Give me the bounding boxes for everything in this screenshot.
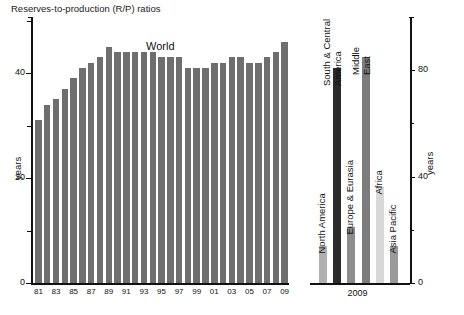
left-axis-tick-label: 40 <box>0 67 25 77</box>
left-x-axis <box>31 283 289 285</box>
right-axis-tick <box>410 177 415 178</box>
left-axis-tick-label: 0 <box>0 277 25 287</box>
bar-world-99 <box>193 68 200 283</box>
left-axis-tick <box>26 73 31 74</box>
bar-world-81 <box>35 120 42 283</box>
right-axis-tick <box>410 230 414 231</box>
bar-region-africa <box>376 187 384 283</box>
bar-world-86 <box>79 68 86 283</box>
chart-figure: Reserves-to-production (R/P) ratios 0204… <box>0 0 464 315</box>
bar-world-02 <box>220 63 227 284</box>
left-axis-tick <box>27 21 31 22</box>
bar-region-middle-east <box>362 57 370 283</box>
region-label-south-central-america: South & CentralAmerica <box>322 18 343 85</box>
bar-world-07 <box>264 57 271 283</box>
right-y-axis <box>410 17 412 284</box>
left-axis-tick <box>27 126 31 127</box>
left-axis-unit-label: years <box>12 157 23 180</box>
bar-world-92 <box>132 52 139 283</box>
region-label-asia-pacific: Asia Pacific <box>387 204 398 253</box>
bar-world-83 <box>53 99 60 283</box>
chart-title: Reserves-to-production (R/P) ratios <box>11 3 160 14</box>
region-label-africa: Africa <box>373 170 384 194</box>
left-axis-tick <box>27 231 31 232</box>
bar-world-95 <box>158 57 165 283</box>
right-axis-cap <box>409 17 414 18</box>
right-x-axis <box>310 283 410 285</box>
bar-world-88 <box>97 57 104 283</box>
bar-world-09 <box>281 42 288 284</box>
bar-world-84 <box>62 89 69 283</box>
bar-world-97 <box>176 57 183 283</box>
bar-world-89 <box>106 47 113 283</box>
bar-world-96 <box>167 57 174 283</box>
bar-world-01 <box>211 63 218 284</box>
world-series-label: World <box>146 40 175 52</box>
right-group-label: 2009 <box>348 288 368 298</box>
left-axis-tick <box>26 178 31 179</box>
right-axis-tick <box>410 123 414 124</box>
bar-world-82 <box>44 105 51 284</box>
bar-world-85 <box>70 78 77 283</box>
bar-world-90 <box>114 52 121 283</box>
bar-region-europe-eurasia <box>347 227 355 283</box>
bar-world-94 <box>150 52 157 283</box>
bar-world-93 <box>141 52 148 283</box>
bar-world-87 <box>88 63 95 284</box>
bar-world-03 <box>229 57 236 283</box>
right-axis-tick <box>410 70 415 71</box>
region-label-middle-east: MiddleEast <box>351 47 372 75</box>
bar-world-98 <box>185 68 192 283</box>
region-label-north-america: North America <box>317 193 328 253</box>
left-x-tick-label: 09 <box>275 287 295 296</box>
right-axis-tick <box>410 283 415 284</box>
bar-world-04 <box>237 57 244 283</box>
bar-world-05 <box>246 63 253 284</box>
region-label-europe-eurasia: Europe & Eurasia <box>345 160 356 234</box>
right-axis-tick-label: 80 <box>418 64 428 74</box>
right-axis-tick-label: 0 <box>418 277 423 287</box>
right-axis-unit-label: years <box>424 152 435 175</box>
bar-world-06 <box>255 63 262 284</box>
bar-region-south-central-america <box>333 68 341 284</box>
bar-world-00 <box>202 68 209 283</box>
bar-world-91 <box>123 52 130 283</box>
left-y-axis <box>31 17 33 284</box>
left-axis-cap <box>28 17 33 18</box>
bar-world-08 <box>273 52 280 283</box>
